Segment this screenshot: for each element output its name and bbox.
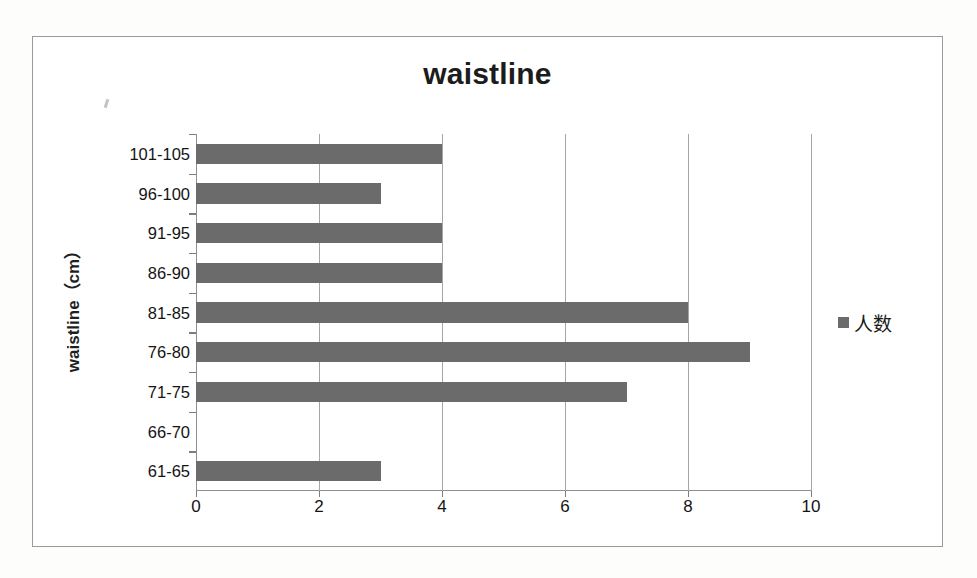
bar-row bbox=[196, 382, 811, 403]
y-axis-tick bbox=[189, 213, 196, 214]
y-axis-label-101-105: 101-105 bbox=[40, 144, 190, 163]
bar-row bbox=[196, 144, 811, 165]
bar-101-105[interactable] bbox=[196, 144, 442, 165]
legend: 人数 bbox=[838, 309, 892, 336]
bar-61-65[interactable] bbox=[196, 461, 381, 482]
bar-row bbox=[196, 223, 811, 244]
y-axis-tick bbox=[189, 372, 196, 373]
bar-row bbox=[196, 302, 811, 323]
y-axis-label-76-80: 76-80 bbox=[40, 343, 190, 362]
y-axis-tick bbox=[189, 293, 196, 294]
gridline-x-10 bbox=[811, 134, 812, 491]
bar-96-100[interactable] bbox=[196, 183, 381, 204]
x-axis-label-8: 8 bbox=[683, 497, 692, 517]
y-axis-tick bbox=[189, 412, 196, 413]
scanned-page: waistline waistline（cm） 101-10596-10091-… bbox=[0, 0, 977, 578]
bar-71-75[interactable] bbox=[196, 382, 627, 403]
y-axis-tick bbox=[189, 451, 196, 452]
y-axis-label-81-85: 81-85 bbox=[40, 303, 190, 322]
y-axis-label-86-90: 86-90 bbox=[40, 263, 190, 282]
bar-81-85[interactable] bbox=[196, 302, 688, 323]
y-axis-label-96-100: 96-100 bbox=[40, 184, 190, 203]
y-axis-tick bbox=[189, 174, 196, 175]
chart-title: waistline bbox=[33, 57, 942, 91]
x-axis-label-4: 4 bbox=[437, 497, 446, 517]
x-axis-label-0: 0 bbox=[191, 497, 200, 517]
plot-area bbox=[196, 134, 811, 491]
chart-frame: waistline waistline（cm） 101-10596-10091-… bbox=[32, 36, 943, 547]
bar-91-95[interactable] bbox=[196, 223, 442, 244]
bar-76-80[interactable] bbox=[196, 342, 750, 363]
x-axis-label-6: 6 bbox=[560, 497, 569, 517]
y-axis-tick bbox=[189, 134, 196, 135]
scan-artifact-speck bbox=[104, 99, 110, 108]
y-axis-tick-labels: 101-10596-10091-9586-9081-8576-8071-7566… bbox=[38, 134, 190, 491]
y-axis-tick bbox=[189, 332, 196, 333]
legend-swatch-icon bbox=[838, 317, 849, 328]
y-axis-label-91-95: 91-95 bbox=[40, 224, 190, 243]
legend-label: 人数 bbox=[854, 309, 892, 336]
x-axis-line bbox=[196, 490, 811, 491]
x-axis-label-2: 2 bbox=[314, 497, 323, 517]
y-axis-tick bbox=[189, 253, 196, 254]
bar-row bbox=[196, 421, 811, 442]
x-axis-label-10: 10 bbox=[802, 497, 821, 517]
y-axis-label-61-65: 61-65 bbox=[40, 462, 190, 481]
x-axis-tick-labels: 0246810 bbox=[196, 497, 811, 527]
bar-86-90[interactable] bbox=[196, 263, 442, 284]
y-axis-label-66-70: 66-70 bbox=[40, 422, 190, 441]
y-axis-label-71-75: 71-75 bbox=[40, 382, 190, 401]
bar-row bbox=[196, 183, 811, 204]
bar-row bbox=[196, 342, 811, 363]
bar-row bbox=[196, 461, 811, 482]
bar-row bbox=[196, 263, 811, 284]
